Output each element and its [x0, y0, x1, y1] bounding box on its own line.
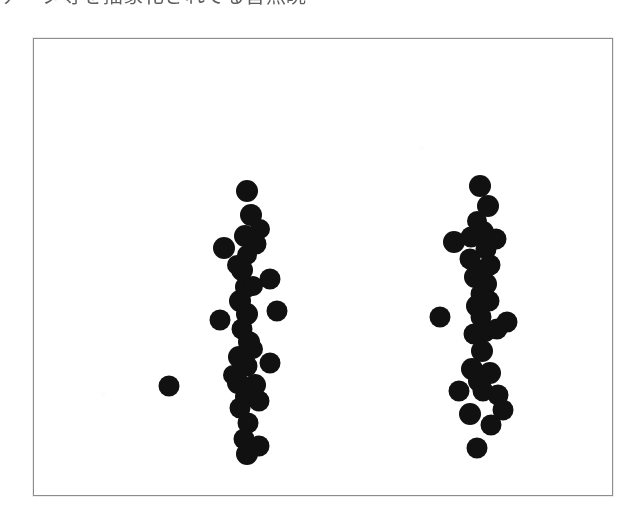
- data-point: [267, 301, 288, 322]
- dot-plot-area: [34, 39, 612, 495]
- data-point: [260, 353, 281, 374]
- data-point: [469, 175, 491, 197]
- data-point: [449, 381, 470, 402]
- data-point: [236, 180, 258, 202]
- data-point: [474, 259, 494, 279]
- data-point: [236, 443, 258, 465]
- data-point: [210, 310, 231, 331]
- data-point: [243, 276, 263, 296]
- data-point: [223, 365, 243, 385]
- page-caption-text: データ等を描象化されてる皆無眺: [0, 0, 640, 9]
- data-point: [481, 415, 502, 436]
- data-point: [459, 403, 481, 425]
- data-point: [430, 307, 451, 328]
- data-point: [243, 339, 263, 359]
- data-point: [227, 255, 247, 275]
- data-point: [443, 231, 465, 253]
- data-point: [249, 391, 270, 412]
- data-point: [487, 319, 508, 340]
- data-point: [159, 376, 180, 397]
- data-point: [467, 438, 488, 459]
- figure-frame: [33, 38, 613, 496]
